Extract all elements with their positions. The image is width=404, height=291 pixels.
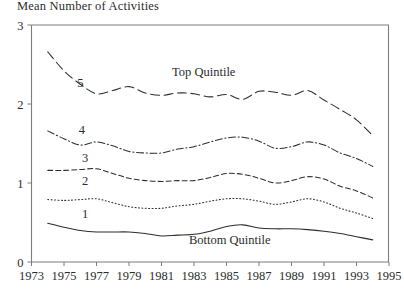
series-label-3: 3 — [82, 151, 88, 165]
figure-container: Mean Number of Activities 0123 197319751… — [0, 0, 404, 291]
series-label-5: 5 — [77, 76, 83, 90]
x-tick-label: 1975 — [52, 269, 77, 283]
series-path-group — [48, 52, 373, 240]
x-tick-group: 1973197519771979198119831985198719891991… — [19, 262, 402, 283]
annotation-bottom-quintile: Bottom Quintile — [189, 233, 271, 247]
series-label-2: 2 — [82, 174, 88, 188]
y-tick-label: 1 — [17, 177, 23, 191]
x-tick-label: 1985 — [214, 269, 239, 283]
x-tick-label: 1989 — [279, 269, 304, 283]
x-tick-label: 1987 — [247, 269, 272, 283]
x-tick-label: 1995 — [377, 269, 402, 283]
series-line-quintile-3 — [48, 169, 373, 198]
x-tick-label: 1973 — [19, 269, 44, 283]
y-tick-label: 2 — [17, 98, 23, 112]
series-label-1: 1 — [82, 207, 88, 221]
x-tick-label: 1979 — [117, 269, 142, 283]
y-tick-group: 0123 — [17, 19, 31, 270]
series-line-quintile-2 — [48, 199, 373, 219]
series-label-4: 4 — [79, 123, 86, 137]
series-line-quintile-4 — [48, 131, 373, 167]
x-tick-label: 1993 — [344, 269, 369, 283]
chart-axes — [32, 25, 390, 262]
y-tick-label: 3 — [17, 19, 23, 33]
annotation-top-quintile: Top Quintile — [172, 65, 236, 79]
y-tick-label: 0 — [17, 256, 23, 270]
x-tick-label: 1991 — [312, 269, 337, 283]
x-tick-label: 1977 — [84, 269, 109, 283]
x-tick-label: 1983 — [182, 269, 207, 283]
line-chart-plot: 0123 19731975197719791981198319851987198… — [0, 0, 404, 291]
x-tick-label: 1981 — [149, 269, 174, 283]
